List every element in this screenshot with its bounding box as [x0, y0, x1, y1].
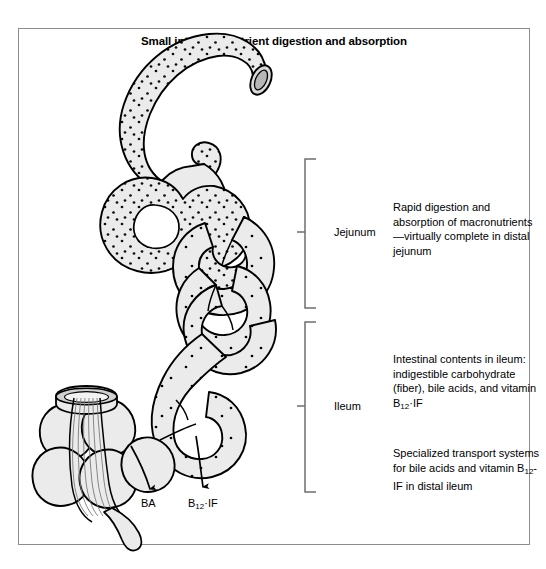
ileum-bracket — [297, 322, 316, 492]
b12-subscript-contents: 12 — [400, 402, 409, 411]
figure-root: Small intestinal nutrient digestion and … — [0, 0, 546, 569]
arrow-label-ba: BA — [141, 497, 156, 509]
ileum-transport-description: Specialized transport systems for bile a… — [393, 446, 543, 494]
jejunum-bracket — [297, 159, 316, 308]
b12if-label-suffix: ·IF — [204, 497, 217, 509]
arrow-label-b12if: B12·IF — [188, 497, 218, 511]
jejunum-description: Rapid digestion and absorption of macron… — [393, 200, 543, 258]
b12if-label-subscript: 12 — [195, 502, 204, 511]
ileum-contents-description: Intestinal contents in ileum: indigestib… — [393, 352, 543, 415]
ileum-transport-text-prefix: Specialized transport systems for bile a… — [393, 447, 539, 474]
bracket-label-ileum: Ileum — [334, 400, 361, 412]
ileum-contents-text-suffix: ·IF — [409, 397, 422, 409]
bracket-label-jejunum: Jejunum — [334, 226, 376, 238]
